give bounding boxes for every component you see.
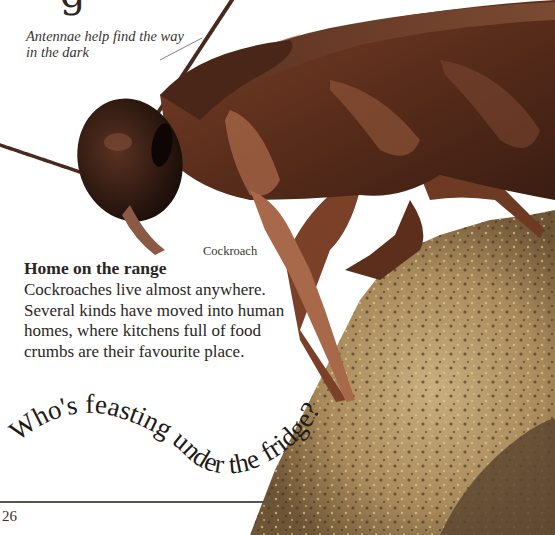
page-number: 26: [2, 508, 17, 525]
cockroach-caption: Cockroach: [203, 244, 257, 259]
section-body: Cockroaches live almost anywhere. Severa…: [24, 280, 294, 362]
section-title: Home on the range: [24, 258, 166, 279]
book-page: g Antennae help find the way in the dark…: [0, 0, 555, 535]
antennae-annotation: Antennae help find the way in the dark: [26, 28, 196, 60]
footer-rule: [0, 501, 275, 503]
heading-fragment: g: [60, 0, 86, 16]
